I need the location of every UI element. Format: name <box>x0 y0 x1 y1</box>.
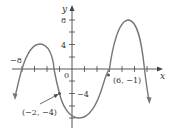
y-tick-label-8: 8 <box>61 16 66 25</box>
annotation-arrow-icon <box>54 94 59 98</box>
x-tick-label-neg8: −8 <box>10 56 22 65</box>
y-axis-label: y <box>61 4 68 14</box>
point-label-6-neg1: (6, −1) <box>113 76 141 85</box>
point-neg2-neg4 <box>58 92 61 95</box>
point-label-neg2-neg4: (−2, −4) <box>22 108 57 117</box>
y-tick-label-4: 4 <box>61 41 66 50</box>
curve-left-arrow-icon <box>13 93 18 100</box>
function-graph: y x 8 4 −4 −8 0 (−2, −4) (6, −1) <box>0 0 173 137</box>
y-axis-arrow-icon <box>70 5 75 11</box>
x-axis-label: x <box>160 71 165 81</box>
annotation-arrow-line <box>40 95 57 104</box>
point-6-neg1 <box>107 74 110 77</box>
origin-label: 0 <box>64 71 69 80</box>
y-tick-label-neg4: −4 <box>77 90 89 99</box>
curve-right-arrow-icon <box>147 97 152 104</box>
